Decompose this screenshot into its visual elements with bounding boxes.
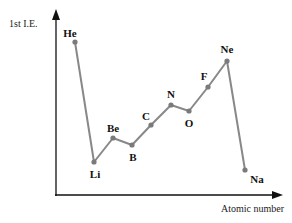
point-label-c: C [142,110,150,122]
point-label-li: Li [90,168,100,180]
data-point-be [110,135,115,140]
data-point-ne [224,58,229,63]
point-label-he: He [63,27,76,39]
x-axis-label: Atomic number [221,203,284,214]
data-point-f [205,84,210,89]
data-point-he [72,39,77,44]
point-label-be: Be [107,122,119,134]
data-point-n [168,102,173,107]
y-axis [52,9,60,196]
data-line [75,42,245,170]
data-markers [72,39,247,172]
point-label-n: N [167,88,175,100]
point-label-o: O [185,117,194,129]
y-axis-arrow-icon [52,9,60,20]
x-axis-arrow-icon [272,191,283,199]
point-label-ne: Ne [221,43,234,55]
data-point-b [129,142,134,147]
data-point-li [91,159,96,164]
data-point-c [148,122,153,127]
x-axis [55,191,283,199]
point-label-f: F [201,70,208,82]
data-point-o [186,108,191,113]
data-point-na [242,167,247,172]
point-label-na: Na [250,173,263,185]
y-axis-label: 1st I.E. [9,18,38,29]
point-label-b: B [129,151,136,163]
